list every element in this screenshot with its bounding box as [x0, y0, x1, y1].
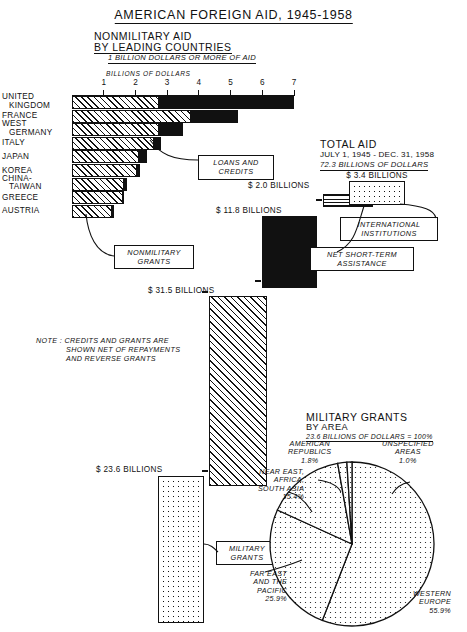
bar-category-label-line1: UNITED — [2, 92, 34, 101]
bar-segment-grants — [72, 137, 154, 150]
bar-axis-tick-label: 5 — [228, 78, 233, 87]
bar-category-label-line1: GREECE — [2, 193, 38, 202]
bar-category-label: WESTGERMANY — [2, 120, 53, 137]
bar-segment-grants — [72, 164, 137, 177]
bar-axis-tick-label: 2 — [133, 78, 138, 87]
callout-nonmilitary-grants[interactable]: NONMILITARY GRANTS — [114, 245, 194, 269]
amount-international: $ 3.4 BILLIONS — [346, 171, 408, 180]
note-block: NOTE : CREDITS AND GRANTS ARE SHOWN NET … — [36, 336, 180, 364]
callout-short-line2: ASSISTANCE — [337, 259, 387, 268]
equals-dash-short — [316, 199, 322, 201]
bar-axis-caption: BILLIONS OF DOLLARS — [106, 70, 191, 77]
amount-loans-text: $ 11.8 BILLIONS — [216, 206, 282, 215]
total-aid-period: JULY 1, 1945 - DEC. 31, 1958 — [320, 150, 434, 159]
callout-international-institutions[interactable]: INTERNATIONAL INSTITUTIONS — [340, 217, 438, 241]
bar-segment-grants — [72, 150, 139, 163]
bar-axis-tick-label: 6 — [260, 78, 265, 87]
pie-label-american-republics: AMERICAN REPUBLICS 1.8% — [288, 440, 331, 465]
block-military-grants — [158, 476, 204, 623]
bar-category-label: GREECE — [2, 194, 38, 203]
nonmilitary-aid-bar-chart: 1234567 UNITEDKINGDOMFRANCEWESTGERMANYIT… — [0, 78, 310, 213]
callout-net-short-term-assistance[interactable]: NET SHORT-TERM ASSISTANCE — [310, 247, 414, 271]
pie-label-near-east: NEAR EAST, AFRICA, SOUTH ASIA 15.4% — [258, 468, 304, 502]
bar-category-label: AUSTRIA — [2, 207, 40, 216]
nonmilitary-aid-threshold-note: 1 BILLION DOLLARS OR MORE OF AID — [108, 53, 256, 64]
pie-ar-line3: 1.8% — [301, 456, 319, 465]
equals-dash-loans — [255, 280, 261, 282]
table-row — [72, 137, 161, 150]
bar-category-label: UNITEDKINGDOM — [2, 93, 50, 110]
pie-label-far-east: FAR EAST AND THE PACIFIC 25.9% — [250, 570, 287, 604]
bar-segment-grants — [72, 191, 123, 204]
bar-segment-loans — [138, 150, 147, 163]
bar-segment-loans — [111, 205, 115, 218]
equals-dash-grants — [202, 291, 208, 293]
table-row — [72, 150, 147, 163]
pie-label-western-europe: WESTERN EUROPE 55.9% — [413, 590, 451, 615]
bar-category-label: CHINA-TAIWAN — [2, 175, 42, 192]
amount-short-term: $ 2.0 BILLIONS — [248, 181, 310, 190]
bar-segment-loans — [158, 123, 183, 136]
table-row — [72, 191, 124, 204]
bar-category-label-line1: WEST — [2, 119, 27, 128]
bar-segment-loans — [158, 96, 294, 109]
bar-category-label: JAPAN — [2, 153, 29, 162]
total-aid-heading: TOTAL AID — [320, 138, 377, 150]
pie-label-unspecified-areas: UNSPECIFIED AREAS 1.0% — [382, 440, 434, 465]
table-row — [72, 164, 140, 177]
bar-segment-grants — [72, 205, 112, 218]
military-grants-pie-subheading: BY AREA — [306, 422, 348, 432]
table-row — [72, 110, 239, 123]
pie-fe-line4: 25.9% — [265, 594, 287, 603]
bar-axis-tick-label: 7 — [292, 78, 297, 87]
bar-segment-loans — [136, 164, 140, 177]
amount-military-grants-text: $ 23.6 BILLIONS — [96, 465, 162, 474]
table-row — [72, 205, 114, 218]
bar-category-label-line1: AUSTRIA — [2, 206, 40, 215]
callout-grants-line2: GRANTS — [138, 257, 171, 266]
bar-category-label-line2: GERMANY — [2, 129, 53, 138]
bar-segment-grants — [72, 123, 159, 136]
pie-ne-line4: 15.4% — [282, 492, 304, 501]
bar-segment-grants — [72, 178, 124, 191]
amount-short-term-text: $ 2.0 BILLIONS — [248, 181, 310, 190]
note-line-1: NOTE : CREDITS AND GRANTS ARE — [36, 336, 169, 345]
bar-category-label-line2: KINGDOM — [2, 102, 50, 111]
bar-segment-loans — [123, 178, 127, 191]
table-row — [72, 123, 183, 136]
pie-we-line3: 55.9% — [429, 606, 451, 615]
bar-segment-loans — [153, 137, 160, 150]
block-nonmilitary-grants — [209, 296, 267, 486]
amount-loans-credits: $ 11.8 BILLIONS — [216, 206, 282, 215]
callout-intl-line2: INSTITUTIONS — [361, 229, 416, 238]
callout-loans-line2: CREDITS — [219, 167, 254, 176]
page-title: AMERICAN FOREIGN AID, 1945-1958 — [114, 8, 352, 24]
bar-axis-tick-label: 3 — [165, 78, 170, 87]
block-loans-credits — [262, 216, 317, 288]
callout-military-line2: GRANTS — [231, 553, 264, 562]
amount-international-text: $ 3.4 BILLIONS — [346, 171, 408, 180]
bar-category-label: ITALY — [2, 139, 25, 148]
note-line-2: SHOWN NET OF REPAYMENTS — [36, 345, 180, 354]
bar-category-label-line1: JAPAN — [2, 152, 29, 161]
bar-axis-tick-label: 4 — [197, 78, 202, 87]
bar-category-label-line2: TAIWAN — [2, 183, 42, 192]
bar-segment-loans — [190, 110, 239, 123]
bar-axis-tick-label: 1 — [101, 78, 106, 87]
bar-segment-loans — [122, 191, 125, 204]
table-row — [72, 96, 294, 109]
pie-un-line3: 1.0% — [399, 456, 417, 465]
bar-segment-grants — [72, 110, 191, 123]
equals-dash-military — [202, 470, 208, 472]
bar-category-label-line1: ITALY — [2, 138, 25, 147]
table-row — [72, 178, 128, 191]
amount-military-grants: $ 23.6 BILLIONS — [96, 465, 162, 474]
block-international — [349, 181, 405, 205]
total-aid-amount: 72.3 BILLIONS OF DOLLARS — [320, 160, 428, 171]
note-line-3: AND REVERSE GRANTS — [36, 354, 180, 363]
bar-segment-grants — [72, 96, 159, 109]
callout-loans-and-credits[interactable]: LOANS AND CREDITS — [198, 155, 274, 180]
